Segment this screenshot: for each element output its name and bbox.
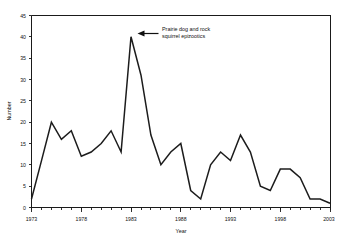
x-tick-label: 1983	[125, 216, 137, 222]
y-tick-label: 35	[20, 55, 26, 61]
y-tick-label: 10	[20, 162, 26, 168]
x-tick-label: 1988	[175, 216, 187, 222]
y-tick-label: 15	[20, 141, 26, 147]
y-tick-label: 25	[20, 98, 26, 104]
data-series-line	[32, 37, 331, 203]
x-tick-label: 1993	[225, 216, 237, 222]
annotation-line-2: squirrel epizootics	[162, 33, 205, 39]
y-tick-label: 40	[20, 34, 26, 40]
axis-lines	[32, 16, 331, 208]
y-tick-labels: 0 5 10 15 20 25 30 35 40 45	[20, 13, 26, 211]
y-axis-title: Number	[6, 101, 12, 120]
annotation-arrow	[138, 30, 159, 36]
x-tick-label: 1998	[275, 216, 287, 222]
y-tick-label: 5	[23, 183, 26, 189]
x-tick-label: 1973	[26, 216, 38, 222]
annotation-label: Prairie dog and rock squirrel epizootics	[162, 26, 211, 40]
y-tick-label: 20	[20, 119, 26, 125]
figure-container: 0 5 10 15 20 25 30 35 40 45	[0, 0, 345, 240]
x-tick-label: 2003	[323, 216, 335, 222]
x-tick-labels: 1973 1978 1983 1988 1993 1998 2003	[26, 216, 335, 222]
x-axis-title: Year	[176, 228, 187, 234]
arrow-head-icon	[138, 30, 145, 36]
y-tick-label: 0	[23, 205, 26, 211]
y-tick-label: 45	[20, 13, 26, 19]
line-chart: 0 5 10 15 20 25 30 35 40 45	[0, 0, 345, 240]
x-tick-label: 1978	[76, 216, 88, 222]
y-tick-label: 30	[20, 77, 26, 83]
annotation-line-1: Prairie dog and rock	[162, 26, 211, 32]
x-axis-major-ticks	[32, 208, 331, 213]
axes-frame	[32, 16, 331, 208]
